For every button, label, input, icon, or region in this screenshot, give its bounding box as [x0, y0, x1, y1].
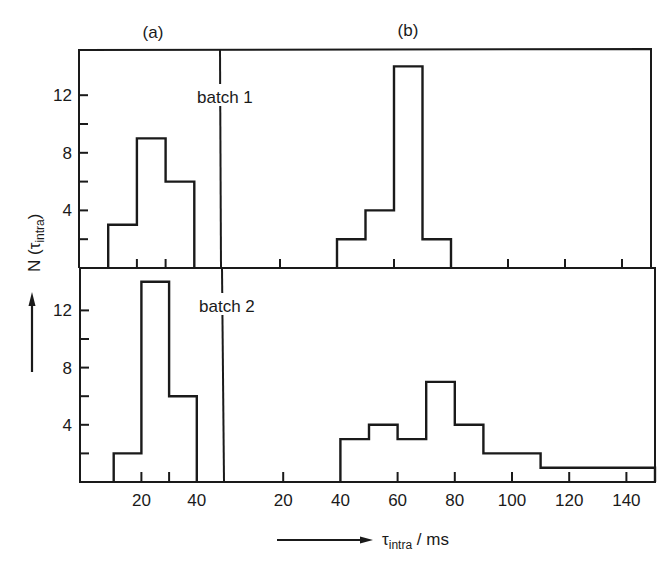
- x-axis-label: τintra / ms: [382, 530, 449, 552]
- y-axis-label: N (τintra): [25, 214, 47, 272]
- x-tick-label-a: 20: [132, 491, 151, 510]
- x-tick-label-b: 80: [445, 491, 464, 510]
- x-tick-label-b: 120: [555, 491, 583, 510]
- panel-label-b: (b): [398, 21, 419, 40]
- x-tick-label-b: 100: [498, 491, 526, 510]
- histograms: [108, 66, 655, 482]
- histogram-b-batch-2: [340, 382, 655, 482]
- y-tick-label-lower: 12: [53, 301, 72, 320]
- x-tick-label-b: 140: [612, 491, 640, 510]
- divider-upper: [220, 50, 221, 268]
- panel-label-a: (a): [143, 23, 164, 42]
- histogram-b-batch-1: [337, 66, 451, 268]
- x-tick-label-b: 60: [388, 491, 407, 510]
- x-tick-label-b: 40: [331, 491, 350, 510]
- x-axis-arrow-icon: [277, 537, 373, 544]
- y-tick-label-upper: 4: [63, 201, 72, 220]
- axis-ticks: [79, 95, 626, 482]
- x-tick-label-a: 40: [187, 491, 206, 510]
- y-tick-label-lower: 4: [63, 416, 72, 435]
- histogram-a-batch-1: [108, 138, 194, 268]
- histogram-a-batch-2: [114, 282, 197, 482]
- batch-1-label: batch 1: [197, 88, 253, 107]
- y-tick-label-lower: 8: [63, 359, 72, 378]
- lower-panel-frame: [79, 268, 655, 482]
- x-tick-label-b: 20: [274, 491, 293, 510]
- y-tick-label-upper: 8: [63, 144, 72, 163]
- histogram-plot: (a) (b) batch 1 batch 2 4488121220402040…: [0, 0, 671, 569]
- y-tick-label-upper: 12: [53, 86, 72, 105]
- svg-text:N (τintra): N (τintra): [25, 214, 47, 272]
- y-axis-arrow-icon: [29, 292, 36, 372]
- batch-2-label: batch 2: [199, 297, 255, 316]
- histogram-figure: (a) (b) batch 1 batch 2 4488121220402040…: [0, 0, 671, 569]
